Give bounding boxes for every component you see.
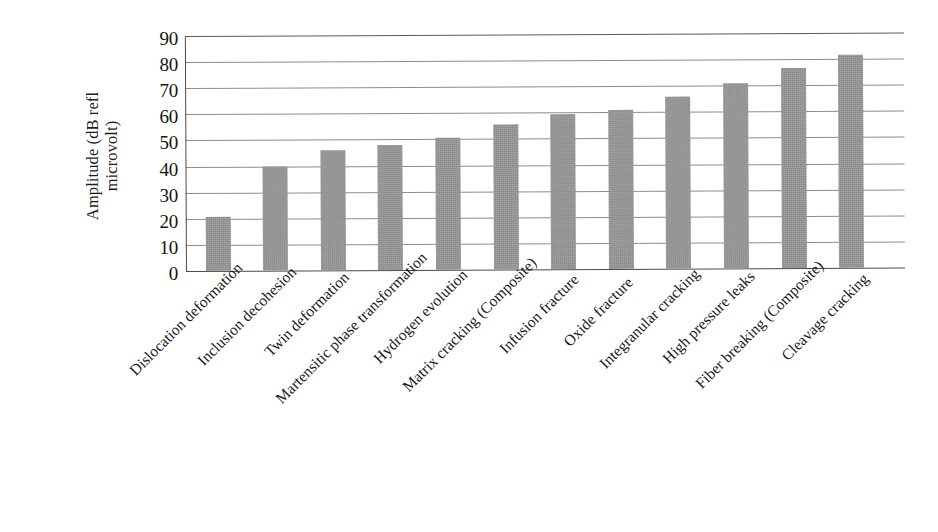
bar [550,114,576,269]
plot-area [186,37,905,272]
bar [378,145,404,270]
y-tick-label-80: 80 [159,55,178,74]
y-axis-title-line-2: microvolt) [102,92,121,220]
bar [838,55,864,268]
bar [608,110,634,269]
y-tick-label-20: 20 [159,211,178,230]
bar [320,150,346,270]
bar [205,217,230,271]
y-tick-label-0: 0 [169,264,178,283]
bar [263,166,289,271]
x-axis-label: Integranular cracking [597,266,703,372]
y-tick-label-30: 30 [159,185,178,204]
bar [493,124,519,269]
y-axis-tick-labels: 0102030405060708090 [140,0,184,532]
bar [781,68,807,268]
bar-chart-figure: Amplitude (dB refl microvolt) 0102030405… [0,0,938,532]
y-tick-label-60: 60 [159,107,178,126]
y-axis-title-text: Amplitude (dB refl microvolt) [83,92,122,220]
bar [723,83,749,268]
y-tick-label-70: 70 [159,81,178,100]
bar [665,96,691,268]
y-tick-label-50: 50 [159,133,178,152]
x-axis-label: Inclusion decohesion [194,264,299,369]
bar-series [185,33,905,272]
y-tick-label-10: 10 [159,237,178,256]
y-tick-label-90: 90 [159,29,178,48]
bar [435,138,461,270]
y-axis-title: Amplitude (dB refl microvolt) [62,36,142,276]
y-axis-title-line-1: Amplitude (dB refl [83,92,102,220]
y-tick-label-40: 40 [159,159,178,178]
